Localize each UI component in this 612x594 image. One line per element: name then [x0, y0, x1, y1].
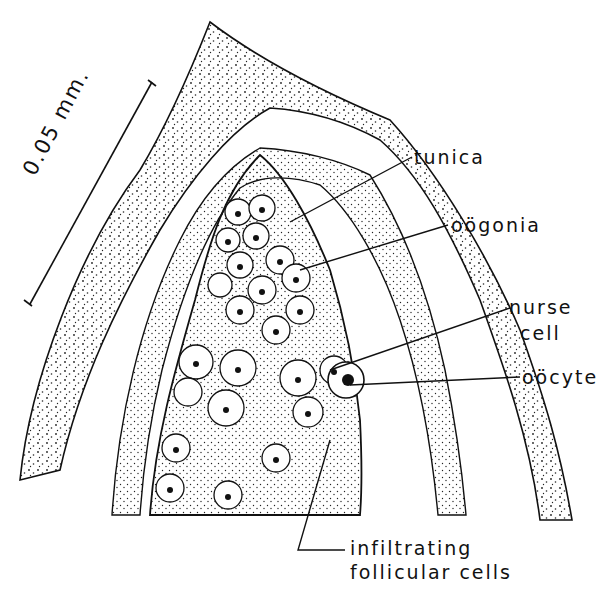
label-oogonia: oögonia [451, 214, 541, 236]
label-infiltrating-line2: follicular cells [350, 561, 512, 583]
label-tunica: tunica [414, 146, 485, 168]
label-nurse-cell-line1: nurse [509, 296, 572, 318]
label-infiltrating-line1: infiltrating [350, 537, 472, 559]
label-nurse-cell-line2: cell [520, 322, 561, 344]
label-oocyte: oöcyte [522, 366, 598, 388]
